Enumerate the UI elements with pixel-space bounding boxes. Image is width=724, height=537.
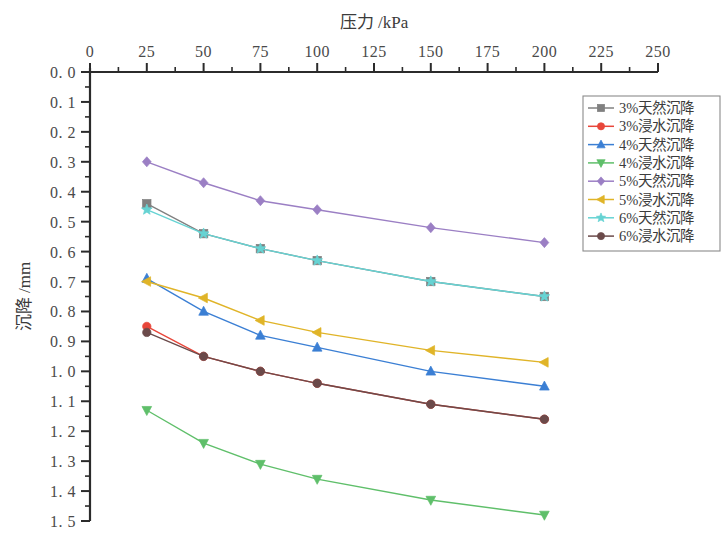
data-point-marker <box>255 316 264 326</box>
y-tick-label-8: 0. 8 <box>50 303 76 320</box>
y-axis-title: 沉降 /mm <box>15 262 34 331</box>
data-point-marker <box>597 233 604 240</box>
legend-label: 3%浸水沉降 <box>619 118 694 134</box>
legend-label: 4%天然沉降 <box>619 137 694 153</box>
y-tick-label-2: 0. 2 <box>50 124 76 141</box>
x-tick-label-225: 225 <box>588 43 614 60</box>
data-point-marker <box>426 223 435 233</box>
x-tick-label-100: 100 <box>304 43 330 60</box>
y-tick-label-9: 0. 9 <box>50 333 76 350</box>
data-point-marker <box>313 379 321 387</box>
legend-label: 3%天然沉降 <box>619 100 694 116</box>
y-tick-label-7: 0. 7 <box>50 274 76 291</box>
series-line <box>147 204 545 297</box>
data-point-marker <box>597 104 604 111</box>
series-line <box>147 410 545 515</box>
y-tick-label-15: 1. 5 <box>50 513 76 530</box>
y-tick-label-6: 0. 6 <box>50 244 76 261</box>
y-tick-label-3: 0. 3 <box>50 154 76 171</box>
y-tick-label-0: 0. 0 <box>50 64 76 81</box>
chart-canvas: 0255075100125150175200225250压力 /kPa0. 00… <box>0 0 724 537</box>
y-tick-label-5: 0. 5 <box>50 214 76 231</box>
data-point-marker <box>540 511 550 520</box>
data-point-marker <box>426 346 435 356</box>
legend-label: 6%浸水沉降 <box>619 228 694 244</box>
legend-label: 4%浸水沉降 <box>619 155 694 171</box>
series-line <box>147 326 545 419</box>
series-line <box>147 332 545 419</box>
settlement-pressure-chart: 0255075100125150175200225250压力 /kPa0. 00… <box>0 0 724 537</box>
data-point-marker <box>256 367 264 375</box>
data-point-marker <box>199 306 209 315</box>
y-tick-label-1: 0. 1 <box>50 94 76 111</box>
x-axis-title: 压力 /kPa <box>340 13 409 32</box>
y-tick-label-10: 1. 0 <box>50 363 76 380</box>
series-4 <box>142 406 549 520</box>
data-point-marker <box>256 196 265 206</box>
data-point-marker <box>143 328 151 336</box>
data-point-marker <box>198 293 207 303</box>
series-3 <box>142 273 549 390</box>
x-tick-label-25: 25 <box>138 43 155 60</box>
series-line <box>147 210 545 297</box>
data-point-marker <box>539 358 548 368</box>
data-point-marker <box>313 205 322 215</box>
y-tick-label-4: 0. 4 <box>50 184 76 201</box>
legend-label: 5%浸水沉降 <box>619 192 694 208</box>
x-tick-label-125: 125 <box>361 43 387 60</box>
y-tick-label-12: 1. 2 <box>50 423 76 440</box>
data-point-marker <box>199 178 208 188</box>
data-point-marker <box>312 328 321 338</box>
x-tick-label-0: 0 <box>86 43 95 60</box>
data-point-marker <box>597 123 604 130</box>
series-8 <box>143 328 549 423</box>
data-point-marker <box>427 400 435 408</box>
series-7 <box>141 204 549 301</box>
x-tick-label-50: 50 <box>195 43 212 60</box>
legend-label: 6%天然沉降 <box>619 210 694 226</box>
y-tick-label-11: 1. 1 <box>50 393 76 410</box>
y-tick-label-13: 1. 3 <box>50 453 76 470</box>
data-point-marker <box>142 406 152 415</box>
x-tick-label-75: 75 <box>252 43 269 60</box>
x-tick-label-250: 250 <box>645 43 671 60</box>
data-point-marker <box>142 157 151 167</box>
legend-label: 5%天然沉降 <box>619 173 694 189</box>
data-point-marker <box>199 352 207 360</box>
x-tick-label-175: 175 <box>475 43 501 60</box>
x-tick-label-200: 200 <box>532 43 558 60</box>
data-point-marker <box>540 415 548 423</box>
x-tick-label-150: 150 <box>418 43 444 60</box>
data-point-marker <box>540 238 549 248</box>
y-tick-label-14: 1. 4 <box>50 483 76 500</box>
